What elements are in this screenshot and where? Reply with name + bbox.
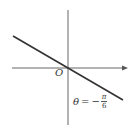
equation-fraction: π 6 [101, 93, 108, 110]
fraction-numerator: π [101, 93, 108, 102]
equation-lhs: θ [73, 96, 79, 107]
equation-label: θ = − π 6 [73, 93, 107, 110]
equation-sign: − [91, 96, 99, 107]
origin-label: O [55, 67, 63, 78]
equation-equals: = [81, 96, 89, 107]
x-axis-arrow-icon [122, 66, 128, 71]
diagram-canvas [0, 0, 133, 126]
fraction-denominator: 6 [102, 102, 106, 110]
